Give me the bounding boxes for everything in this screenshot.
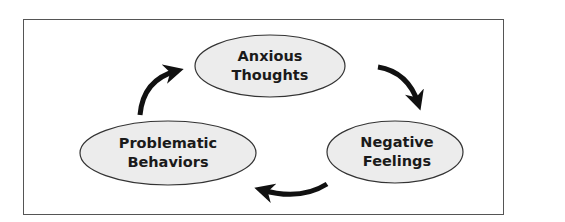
- node-label-line1: Anxious: [238, 48, 303, 64]
- node-label-line1: Problematic: [119, 135, 217, 151]
- node-label-line1: Negative: [360, 134, 433, 150]
- arrow-behaviors-to-thoughts: [140, 71, 176, 115]
- node-problematic-behaviors: Problematic Behaviors: [80, 121, 256, 185]
- arrow-feelings-to-behaviors: [262, 184, 327, 194]
- node-label-line2: Thoughts: [232, 67, 309, 83]
- node-anxious-thoughts: Anxious Thoughts: [195, 35, 345, 97]
- node-label-line2: Feelings: [363, 153, 431, 169]
- node-negative-feelings: Negative Feelings: [327, 121, 463, 183]
- cycle-diagram: Anxious Thoughts Negative Feelings Probl…: [0, 0, 565, 222]
- node-label-line2: Behaviors: [127, 154, 208, 170]
- arrow-thoughts-to-feelings: [378, 67, 418, 103]
